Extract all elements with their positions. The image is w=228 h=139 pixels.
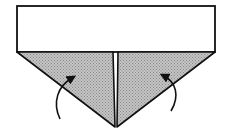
origami-diagram — [0, 0, 228, 139]
left-flap — [17, 52, 115, 127]
right-flap — [117, 52, 215, 127]
paper-rectangle — [17, 6, 215, 52]
